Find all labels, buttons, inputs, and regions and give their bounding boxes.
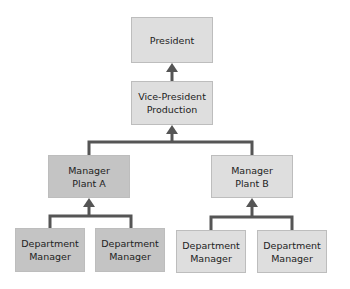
node-label-line2: Manager <box>109 250 151 263</box>
arrow-up-icon <box>83 198 95 207</box>
arrow-up-icon <box>246 198 258 207</box>
node-dept-manager-a1: Department Manager <box>15 228 85 272</box>
node-label-line2: Plant A <box>72 177 105 190</box>
node-label-line1: Department <box>182 239 240 252</box>
node-president: President <box>131 17 213 63</box>
node-dept-manager-b2: Department Manager <box>257 230 327 273</box>
node-dept-manager-a2: Department Manager <box>95 228 165 272</box>
node-dept-manager-b1: Department Manager <box>176 230 246 273</box>
org-chart: President Vice-President Production Mana… <box>0 0 350 289</box>
node-manager-plant-b: Manager Plant B <box>211 155 293 198</box>
node-label-line1: Vice-President <box>138 90 206 103</box>
node-manager-plant-a: Manager Plant A <box>48 155 130 198</box>
node-label-line1: Department <box>21 237 79 250</box>
node-label-line2: Manager <box>190 252 232 265</box>
arrow-up-icon <box>166 125 178 134</box>
node-label-line2: Manager <box>271 252 313 265</box>
arrow-up-icon <box>166 63 178 72</box>
node-label-line2: Plant B <box>235 177 268 190</box>
node-label-line2: Production <box>147 103 198 116</box>
node-label-line1: Department <box>263 239 321 252</box>
node-label: President <box>150 34 194 47</box>
node-label-line2: Manager <box>29 250 71 263</box>
node-label-line1: Manager <box>68 164 110 177</box>
node-label-line1: Department <box>101 237 159 250</box>
node-label-line1: Manager <box>231 164 273 177</box>
node-vice-president: Vice-President Production <box>131 81 213 125</box>
